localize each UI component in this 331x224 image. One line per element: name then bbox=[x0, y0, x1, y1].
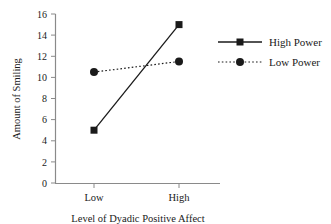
y-axis-title: Amount of Smiling bbox=[11, 57, 22, 139]
y-tick-label: 10 bbox=[37, 72, 47, 83]
x-tick-label: Low bbox=[84, 192, 104, 203]
legend-item-high-power: High Power bbox=[218, 36, 322, 48]
x-tick-label: High bbox=[169, 192, 191, 203]
x-axis-ticks bbox=[94, 184, 179, 189]
data-point-high-power-low bbox=[91, 127, 98, 134]
y-tick-label: 0 bbox=[42, 178, 47, 189]
legend-label-high-power: High Power bbox=[269, 36, 322, 48]
legend: High Power Low Power bbox=[218, 36, 322, 68]
x-axis-title: Level of Dyadic Positive Affect bbox=[71, 213, 204, 224]
data-point-low-power-high bbox=[175, 58, 183, 66]
y-tick-label: 6 bbox=[42, 114, 47, 125]
series-low-power-line bbox=[94, 62, 179, 73]
y-tick-label: 4 bbox=[42, 135, 47, 146]
line-chart: 16 14 12 10 8 6 4 2 0 Low High Level of … bbox=[0, 0, 331, 224]
y-tick-label: 8 bbox=[42, 93, 47, 104]
data-point-high-power-high bbox=[176, 21, 183, 28]
series-high-power-line bbox=[94, 25, 179, 131]
chart-figure: 16 14 12 10 8 6 4 2 0 Low High Level of … bbox=[0, 0, 331, 224]
legend-marker-circle-icon bbox=[236, 58, 244, 66]
legend-label-low-power: Low Power bbox=[269, 56, 320, 68]
y-tick-label: 14 bbox=[37, 30, 47, 41]
y-tick-label: 12 bbox=[37, 51, 47, 62]
y-tick-label: 2 bbox=[42, 157, 47, 168]
y-axis-ticks bbox=[51, 14, 56, 183]
y-tick-label: 16 bbox=[37, 9, 47, 20]
legend-item-low-power: Low Power bbox=[218, 56, 320, 68]
legend-marker-square-icon bbox=[237, 39, 244, 46]
data-point-low-power-low bbox=[90, 68, 98, 76]
